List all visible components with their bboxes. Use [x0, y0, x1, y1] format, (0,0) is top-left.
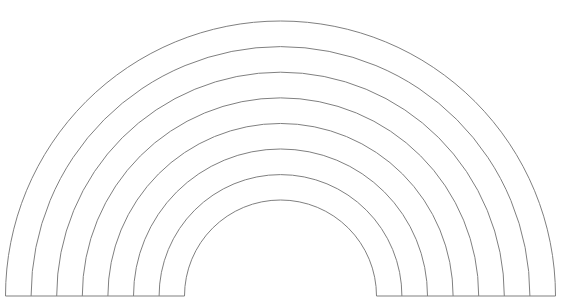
canvas-background — [0, 0, 562, 304]
rainbow-figure — [0, 0, 562, 304]
rainbow-canvas — [0, 0, 562, 304]
